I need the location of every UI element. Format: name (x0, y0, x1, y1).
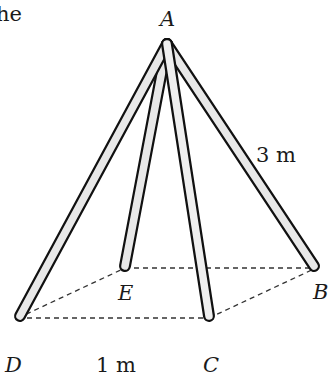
vertex-label-D: D (5, 355, 22, 376)
poles (20, 44, 314, 316)
vertex-label-A: A (160, 9, 175, 30)
base-side-label: 1 m (96, 355, 136, 376)
vertex-label-B: B (313, 282, 328, 303)
vertex-label-E: E (118, 283, 133, 304)
cropped-text: he (0, 4, 22, 25)
vertex-label-C: C (203, 355, 219, 376)
base-square-edges (18, 268, 316, 318)
pole-length-label: 3 m (256, 145, 296, 166)
edge-C-B (209, 268, 316, 318)
